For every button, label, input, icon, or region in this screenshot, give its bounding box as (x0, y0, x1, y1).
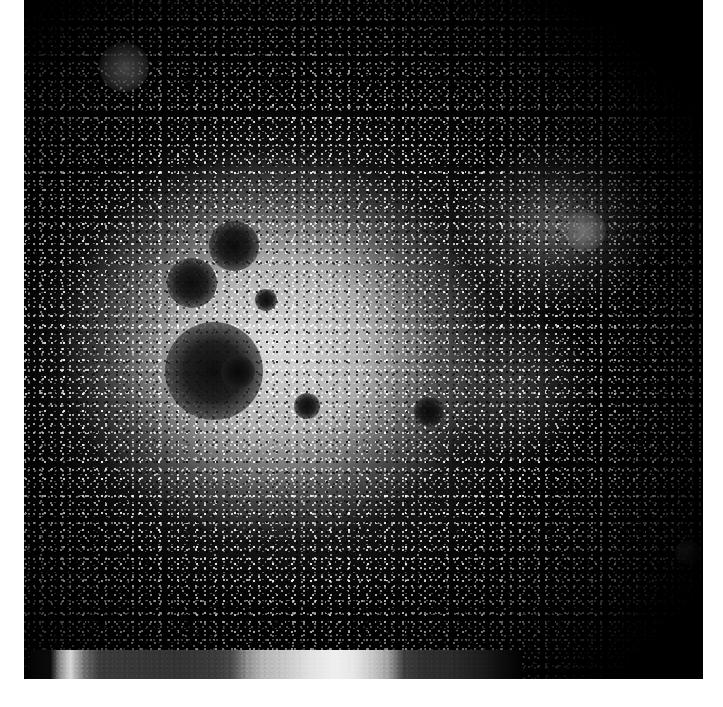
vignette-layer (24, 0, 703, 679)
colorbar[interactable] (31, 650, 521, 679)
intensity-map-panel[interactable] (24, 0, 703, 679)
figure-root (0, 0, 723, 707)
colorbar-noise (31, 650, 521, 679)
